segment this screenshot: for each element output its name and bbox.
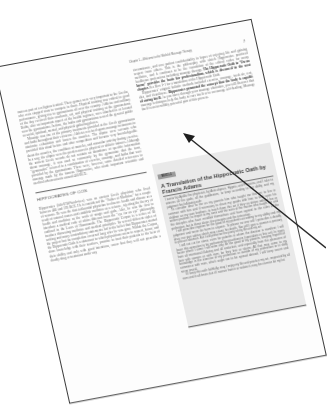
oath-box: BOX 1-1 A Translation of the Hippocratic…: [152, 143, 306, 328]
box-label: BOX 1-1: [157, 171, 176, 179]
page-number: 7: [243, 39, 246, 43]
book-page: Chapter 1—Welcome to the World of Massag…: [0, 19, 327, 404]
left-column: mass as part of a religious festival. Th…: [17, 90, 162, 263]
box-body: I swear by Apollo the physician, by Aesc…: [165, 179, 291, 281]
